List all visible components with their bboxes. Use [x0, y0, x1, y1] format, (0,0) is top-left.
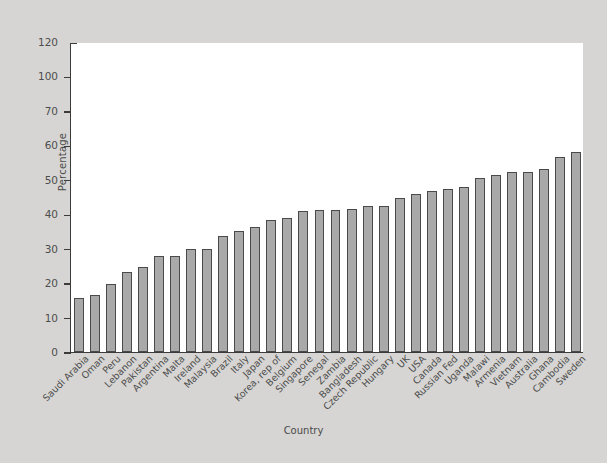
bar	[266, 220, 276, 352]
bar	[555, 157, 565, 352]
y-axis-tick-label: 20	[45, 277, 58, 289]
y-axis-tick-label: 120	[38, 36, 58, 48]
bar	[539, 169, 549, 352]
bar	[427, 191, 437, 352]
bar	[298, 211, 308, 352]
plot-area	[70, 43, 583, 353]
bar-chart-figure: 120100706050403020100 Percentage Saudi A…	[0, 0, 607, 463]
bar	[170, 256, 180, 352]
bar	[138, 267, 148, 352]
bars-group	[71, 43, 583, 352]
bar	[315, 210, 325, 352]
bar	[491, 175, 501, 352]
y-axis-tick-mark	[64, 283, 71, 284]
x-axis-title: Country	[0, 425, 607, 436]
bar	[90, 295, 100, 352]
y-axis-tick-label: 10	[45, 312, 58, 324]
y-axis-tick-label: 100	[38, 70, 58, 82]
bar	[250, 227, 260, 352]
y-axis-top-cap	[70, 43, 77, 44]
y-axis-tick-label: 0	[51, 346, 58, 358]
y-axis-title: Percentage	[57, 107, 68, 217]
bar	[154, 256, 164, 352]
bar	[379, 206, 389, 352]
y-axis-tick-mark	[64, 77, 71, 78]
bar	[202, 249, 212, 352]
bar	[411, 194, 421, 352]
bar	[443, 189, 453, 352]
bar	[571, 152, 581, 352]
bar	[459, 187, 469, 352]
bar	[106, 284, 116, 352]
bar	[363, 206, 373, 352]
bar	[395, 198, 405, 352]
bar	[347, 209, 357, 352]
bar	[218, 236, 228, 352]
bar	[74, 298, 84, 352]
y-axis-tick-label: 70	[45, 105, 58, 117]
x-axis-tick-labels: Saudi ArabiaOmanPeruLebanonPakistanArgen…	[70, 353, 583, 423]
bar	[186, 249, 196, 352]
bar	[507, 172, 517, 352]
bar	[282, 218, 292, 352]
bar	[475, 178, 485, 352]
bar	[523, 172, 533, 352]
y-axis-tick-label: 60	[45, 139, 58, 151]
y-axis-tick-mark	[64, 249, 71, 250]
y-axis-tick-mark	[64, 318, 71, 319]
bar	[234, 231, 244, 352]
bar	[331, 210, 341, 352]
y-axis-tick-label: 50	[45, 174, 58, 186]
y-axis-tick-label: 30	[45, 243, 58, 255]
bar	[122, 272, 132, 352]
y-axis-tick-label: 40	[45, 208, 58, 220]
